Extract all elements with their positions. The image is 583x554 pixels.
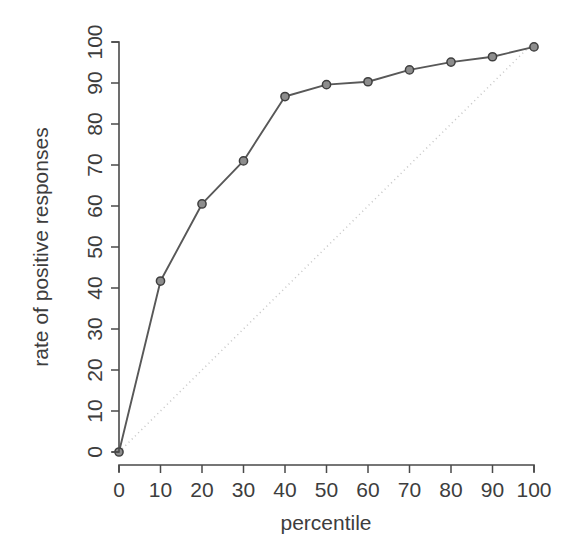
x-tick-label: 60 — [356, 478, 379, 501]
data-point-marker — [281, 92, 289, 100]
y-tick-label: 20 — [83, 358, 106, 381]
x-tick-label: 70 — [398, 478, 421, 501]
y-axis-title: rate of positive responses — [29, 127, 52, 366]
x-tick-label: 80 — [439, 478, 462, 501]
x-tick-label: 90 — [481, 478, 504, 501]
data-point-marker — [239, 157, 247, 165]
y-tick-label: 80 — [83, 112, 106, 135]
y-tick-label: 10 — [83, 399, 106, 422]
y-tick-label: 60 — [83, 194, 106, 217]
data-point-marker — [405, 66, 413, 74]
x-tick-label: 30 — [232, 478, 255, 501]
data-point-marker — [198, 200, 206, 208]
x-tick-label: 0 — [113, 478, 125, 501]
y-tick-label: 100 — [83, 24, 106, 59]
x-tick-label: 100 — [516, 478, 551, 501]
y-tick-label: 50 — [83, 235, 106, 258]
x-axis-title: percentile — [280, 511, 371, 534]
data-point-marker — [530, 43, 538, 51]
y-tick-label: 90 — [83, 71, 106, 94]
y-tick-label: 30 — [83, 317, 106, 340]
data-point-marker — [447, 58, 455, 66]
x-tick-label: 20 — [190, 478, 213, 501]
y-tick-label: 70 — [83, 153, 106, 176]
chart-figure: 0102030405060708090100 01020304050607080… — [0, 0, 583, 554]
y-tick-label: 40 — [83, 276, 106, 299]
x-tick-label: 10 — [149, 478, 172, 501]
data-point-marker — [156, 277, 164, 285]
data-point-marker — [488, 53, 496, 61]
y-tick-label: 0 — [83, 446, 106, 458]
data-point-marker — [364, 78, 372, 86]
data-point-marker — [322, 81, 330, 89]
gain-curve-plot: 0102030405060708090100 01020304050607080… — [0, 0, 583, 554]
x-tick-label: 50 — [315, 478, 338, 501]
x-tick-label: 40 — [273, 478, 296, 501]
